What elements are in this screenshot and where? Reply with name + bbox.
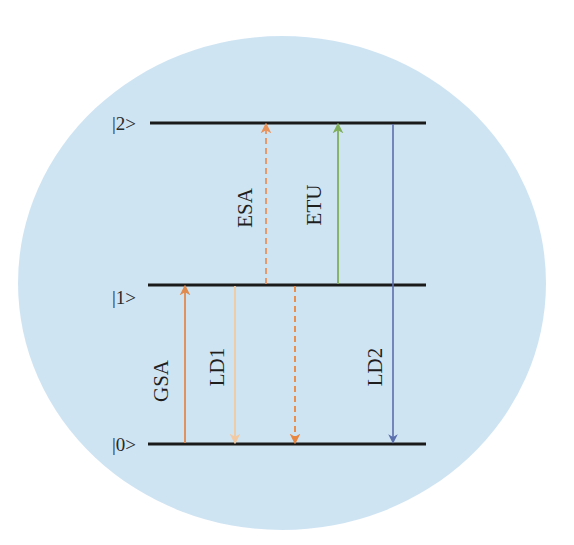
ld2-label: LD2 [363,348,387,387]
etu-label: ETU [302,185,326,226]
esa-label: ESA [233,187,257,228]
energy-level-diagram: |2> |1> |0> GSA LD1 ESA ETU LD2 [0,0,574,545]
gsa-label: GSA [149,359,173,402]
level-0-label: |0> [112,434,136,455]
ld1-label: LD1 [205,348,229,387]
level-2-label: |2> [112,113,136,134]
level-1-label: |1> [112,287,136,308]
background-circle [18,36,546,530]
